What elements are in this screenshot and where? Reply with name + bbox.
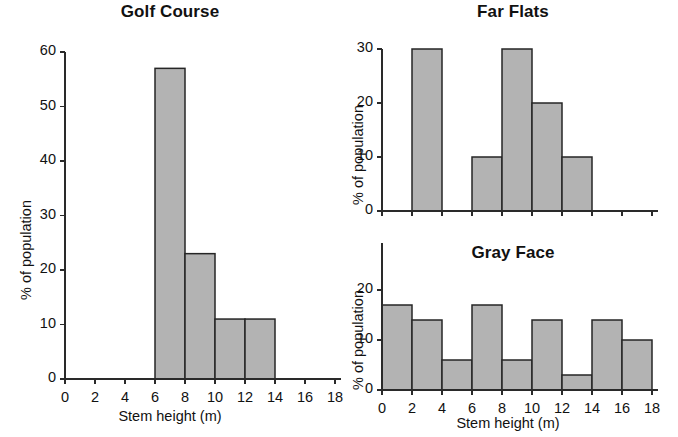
plot-area-gray-face bbox=[338, 0, 678, 437]
y-tick-label: 50 bbox=[16, 97, 56, 113]
histogram-bar bbox=[622, 340, 652, 390]
histogram-bar bbox=[185, 254, 215, 379]
histogram-bar bbox=[442, 360, 472, 390]
y-tick-label: 0 bbox=[16, 369, 56, 385]
histogram-bar bbox=[155, 68, 185, 379]
histogram-bar bbox=[532, 320, 562, 390]
y-tick-label: 20 bbox=[333, 280, 373, 296]
panel-golf-course: Golf Course % of population Stem height … bbox=[0, 0, 340, 437]
histogram-bar bbox=[592, 320, 622, 390]
figure-histogram-panels: Golf Course % of population Stem height … bbox=[0, 0, 678, 437]
histogram-bar bbox=[562, 375, 592, 390]
y-tick-label: 20 bbox=[16, 260, 56, 276]
histogram-bar bbox=[502, 360, 532, 390]
y-tick-label: 10 bbox=[333, 330, 373, 346]
y-tick-label: 0 bbox=[333, 380, 373, 396]
panel-gray-face: Gray Face % of population Stem height (m… bbox=[338, 0, 678, 437]
histogram-bar bbox=[215, 319, 245, 379]
histogram-bar bbox=[382, 305, 412, 390]
y-tick-label: 60 bbox=[16, 42, 56, 58]
histogram-bar bbox=[472, 305, 502, 390]
histogram-bar bbox=[245, 319, 275, 379]
x-tick-label: 18 bbox=[632, 400, 672, 416]
y-tick-label: 30 bbox=[16, 206, 56, 222]
y-tick-label: 10 bbox=[16, 315, 56, 331]
y-tick-label: 40 bbox=[16, 151, 56, 167]
histogram-bar bbox=[412, 320, 442, 390]
